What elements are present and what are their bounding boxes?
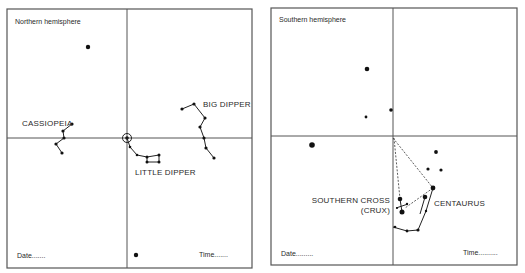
southern-cross-label: SOUTHERN CROSS xyxy=(312,196,390,205)
star xyxy=(365,67,370,72)
star xyxy=(86,45,90,49)
big-dipper-label: BIG DIPPER xyxy=(203,100,251,109)
panel-title: Northern hemisphere xyxy=(15,18,81,26)
date-field[interactable]: Date......... xyxy=(281,250,313,257)
star xyxy=(389,108,393,112)
cassiopeia-label: CASSIOPEIA xyxy=(22,119,73,128)
centaurus-label: CENTAURUS xyxy=(434,199,485,208)
panel-title: Southern hemisphere xyxy=(279,16,346,24)
date-field[interactable]: Date....... xyxy=(17,252,45,259)
time-field[interactable]: Time....... xyxy=(199,251,228,258)
northern-hemisphere-panel: Northern hemisphere CASSIOPEIA LITTLE D xyxy=(7,9,252,268)
star xyxy=(439,168,442,171)
star-charts: Northern hemisphere CASSIOPEIA LITTLE D xyxy=(0,0,525,273)
star xyxy=(134,253,138,257)
star xyxy=(365,116,368,119)
star xyxy=(426,167,429,170)
southern-hemisphere-panel: Southern hemisphere SOUTHERN CROSS (CRUX… xyxy=(271,8,517,265)
time-field[interactable]: Time.......... xyxy=(463,249,498,256)
centaurus-constellation xyxy=(393,186,435,233)
southern-cross-constellation xyxy=(396,197,408,215)
crux-label: (CRUX) xyxy=(361,206,390,215)
big-dipper-constellation xyxy=(180,102,215,159)
star xyxy=(434,150,438,154)
little-dipper-label: LITTLE DIPPER xyxy=(135,168,196,177)
star xyxy=(309,142,315,148)
